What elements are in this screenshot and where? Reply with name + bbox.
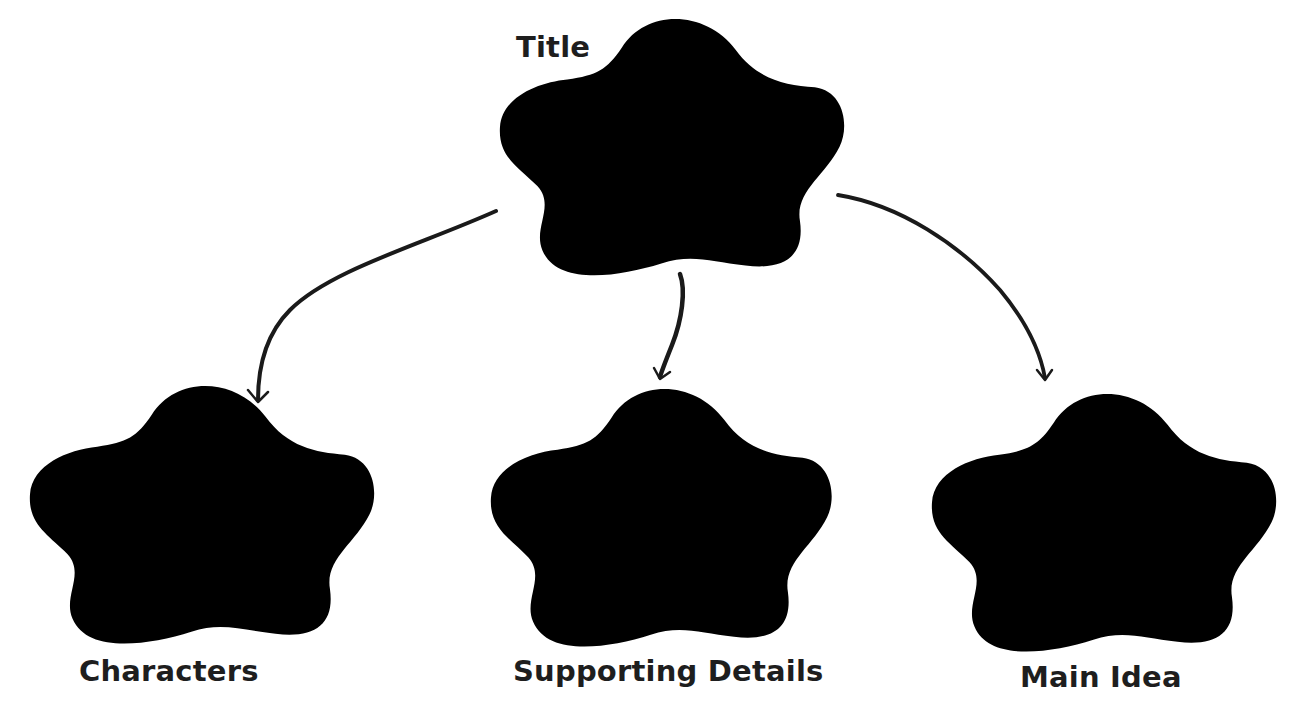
diagram-canvas [0, 0, 1292, 709]
title-label: Title [516, 30, 590, 64]
arrow-title-to-supporting-details [654, 274, 683, 379]
arrow-title-to-characters [248, 211, 496, 402]
supporting-details-label: Supporting Details [513, 654, 824, 688]
main-idea-label: Main Idea [1020, 660, 1182, 694]
arrow-title-to-main-idea [838, 195, 1052, 380]
characters-flower[interactable] [30, 386, 374, 644]
characters-label: Characters [79, 654, 259, 688]
main-idea-flower[interactable] [932, 394, 1276, 652]
supporting-details-flower[interactable] [491, 389, 832, 647]
